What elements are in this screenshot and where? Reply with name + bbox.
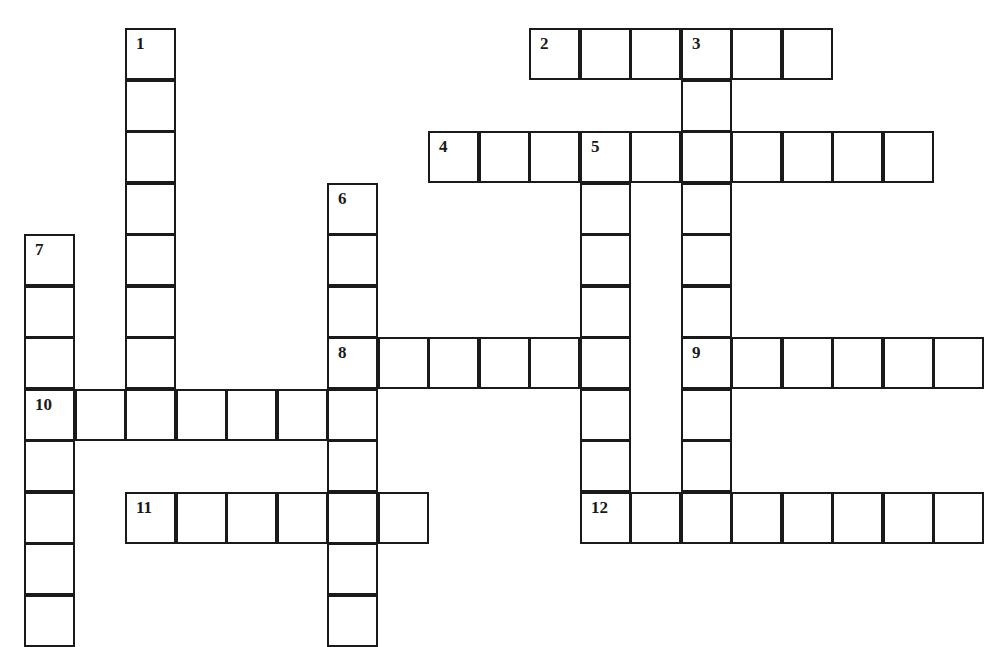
crossword-cell[interactable] — [327, 543, 378, 595]
crossword-cell[interactable] — [176, 492, 227, 544]
crossword-cell[interactable] — [24, 337, 75, 389]
crossword-cell[interactable] — [580, 389, 631, 441]
clue-number: 5 — [591, 138, 600, 155]
crossword-cell[interactable] — [327, 389, 378, 441]
crossword-cell[interactable] — [24, 286, 75, 338]
crossword-cell[interactable]: 9 — [681, 337, 732, 389]
crossword-cell[interactable] — [125, 234, 176, 286]
crossword-cell[interactable]: 6 — [327, 183, 378, 235]
crossword-cell[interactable] — [277, 492, 328, 544]
crossword-cell[interactable] — [933, 337, 984, 389]
crossword-cell[interactable]: 8 — [327, 337, 378, 389]
crossword-cell[interactable] — [226, 492, 277, 544]
crossword-cell[interactable] — [681, 234, 732, 286]
crossword-cell[interactable] — [681, 440, 732, 492]
crossword-cell[interactable] — [327, 440, 378, 492]
crossword-cell[interactable] — [933, 492, 984, 544]
clue-number: 4 — [439, 138, 448, 155]
crossword-cell[interactable] — [277, 389, 328, 441]
crossword-cell[interactable] — [630, 28, 681, 80]
crossword-cell[interactable] — [630, 131, 681, 183]
clue-number: 7 — [35, 241, 44, 258]
clue-number: 11 — [136, 499, 152, 516]
crossword-cell[interactable] — [782, 131, 833, 183]
clue-number: 6 — [338, 190, 347, 207]
crossword-cell[interactable] — [125, 80, 176, 132]
clue-number: 10 — [35, 396, 52, 413]
crossword-cell[interactable]: 5 — [580, 131, 631, 183]
clue-number: 1 — [136, 35, 145, 52]
crossword-cell[interactable] — [327, 234, 378, 286]
crossword-cell[interactable] — [681, 286, 732, 338]
crossword-cell[interactable] — [479, 337, 530, 389]
crossword-cell[interactable] — [681, 492, 732, 544]
crossword-cell[interactable] — [782, 337, 833, 389]
crossword-cell[interactable] — [731, 492, 782, 544]
crossword-cell[interactable] — [125, 183, 176, 235]
crossword-cell[interactable] — [479, 131, 530, 183]
crossword-cell[interactable] — [327, 492, 378, 544]
crossword-cell[interactable] — [681, 389, 732, 441]
crossword-cell[interactable] — [125, 286, 176, 338]
clue-number: 3 — [692, 35, 701, 52]
crossword-cell[interactable] — [731, 337, 782, 389]
crossword-cell[interactable] — [681, 183, 732, 235]
crossword-cell[interactable] — [681, 80, 732, 132]
crossword-cell[interactable] — [883, 131, 934, 183]
crossword-cell[interactable] — [75, 389, 126, 441]
crossword-cell[interactable] — [327, 286, 378, 338]
crossword-cell[interactable] — [176, 389, 227, 441]
crossword-cell[interactable] — [428, 337, 479, 389]
crossword-cell[interactable]: 4 — [428, 131, 479, 183]
crossword-cell[interactable] — [580, 234, 631, 286]
crossword-cell[interactable] — [378, 337, 429, 389]
crossword-cell[interactable] — [580, 28, 631, 80]
clue-number: 9 — [692, 344, 701, 361]
crossword-cell[interactable]: 10 — [24, 389, 75, 441]
crossword-cell[interactable] — [630, 492, 681, 544]
crossword-cell[interactable] — [24, 595, 75, 647]
clue-number: 12 — [591, 499, 608, 516]
crossword-cell[interactable] — [681, 131, 732, 183]
crossword-cell[interactable] — [832, 337, 883, 389]
crossword-cell[interactable] — [226, 389, 277, 441]
crossword-cell[interactable] — [125, 337, 176, 389]
crossword-cell[interactable] — [327, 595, 378, 647]
crossword-cell[interactable] — [24, 543, 75, 595]
crossword-cell[interactable] — [24, 492, 75, 544]
crossword-cell[interactable] — [832, 492, 883, 544]
crossword-cell[interactable] — [529, 131, 580, 183]
clue-number: 2 — [540, 35, 549, 52]
clue-number: 8 — [338, 344, 347, 361]
crossword-cell[interactable] — [580, 183, 631, 235]
crossword-cell[interactable] — [731, 131, 782, 183]
crossword-cell[interactable] — [782, 28, 833, 80]
crossword-cell[interactable]: 1 — [125, 28, 176, 80]
crossword-cell[interactable]: 2 — [529, 28, 580, 80]
crossword-cell[interactable] — [125, 131, 176, 183]
crossword-cell[interactable] — [832, 131, 883, 183]
crossword-cell[interactable]: 7 — [24, 234, 75, 286]
crossword-cell[interactable] — [580, 337, 631, 389]
crossword-cell[interactable] — [529, 337, 580, 389]
crossword-cell[interactable] — [782, 492, 833, 544]
crossword-cell[interactable] — [731, 28, 782, 80]
crossword-cell[interactable] — [125, 389, 176, 441]
crossword-cell[interactable] — [24, 440, 75, 492]
crossword-cell[interactable] — [883, 337, 934, 389]
crossword-cell[interactable]: 12 — [580, 492, 631, 544]
crossword-cell[interactable] — [883, 492, 934, 544]
crossword-cell[interactable] — [580, 440, 631, 492]
crossword-cell[interactable]: 3 — [681, 28, 732, 80]
crossword-cell[interactable] — [580, 286, 631, 338]
crossword-cell[interactable]: 11 — [125, 492, 176, 544]
crossword-cell[interactable] — [378, 492, 429, 544]
